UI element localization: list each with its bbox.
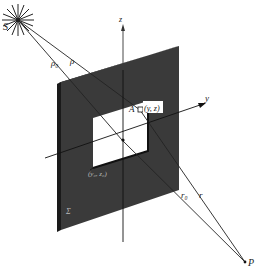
diffraction-diagram: S ρ₀ ρ z y O A (y, z) (y₀, z₀) Σ r₀ r P [0,0,255,273]
label-point-a-coords: (y, z) [144,104,160,113]
source-point [16,18,20,22]
label-origin: O [112,135,119,145]
label-observer: P [247,257,254,268]
z-axis-arrow-icon [121,24,125,31]
label-z-axis: z [118,15,123,24]
label-source: S [3,21,8,32]
label-rho: ρ [69,56,75,66]
label-rho0: ρ₀ [50,58,58,68]
point-a-marker [138,107,143,112]
screen-edge [57,82,61,232]
label-r: r [199,190,203,200]
label-point-a: A [128,104,135,114]
label-r0: r₀ [181,190,188,200]
label-y-axis: y [204,93,209,103]
origin-point [121,138,124,141]
label-aperture-corner: (y₀, z₀) [88,170,108,178]
y-axis-arrow-icon [198,103,206,108]
label-screen: Σ [65,207,71,216]
observer-point [244,261,247,264]
